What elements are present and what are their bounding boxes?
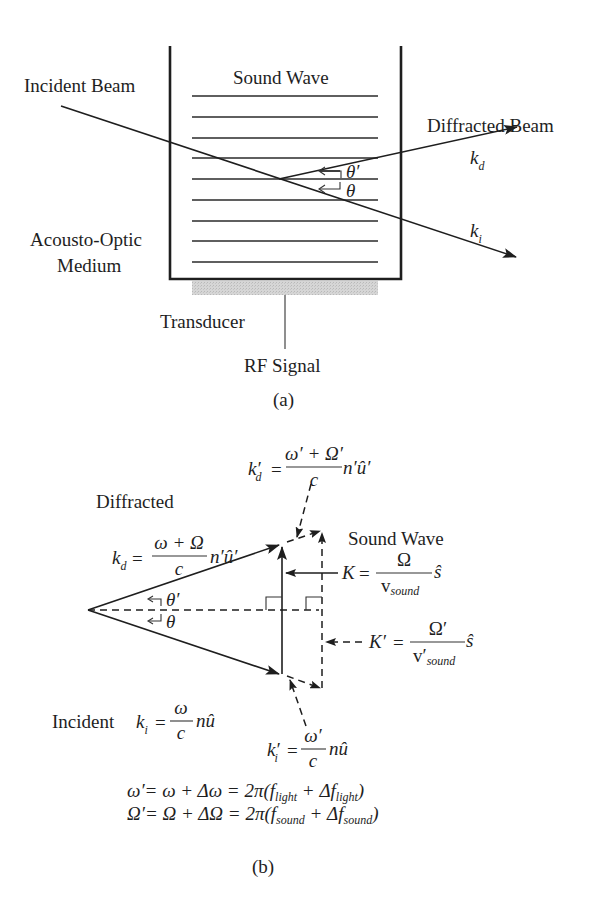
rf-signal-label: RF Signal [244,355,321,376]
transducer-label: Transducer [160,311,245,332]
incident-label: Incident [52,711,115,732]
diffracted-label: Diffracted [96,491,174,512]
svg-text:n′û′: n′û′ [343,457,371,478]
ki-formula: ki = ω c nû [136,697,215,743]
svg-text:vsound: vsound [381,575,420,598]
figure-b: θ′ θ Diffracted Sound Wave Incident (b) … [52,443,474,878]
acousto-optic-figure: θ′ θ Incident Beam Sound Wave Diffracted… [0,0,608,920]
svg-text:=: = [359,563,370,584]
svg-text:ŝ: ŝ [434,561,442,582]
svg-text:n′û′: n′û′ [210,546,238,567]
svg-text:c: c [309,750,318,771]
svg-text:=: = [155,712,166,733]
ki-prime-formula: k′i = ω′ c nû [267,725,348,771]
theta-label: θ [346,180,355,201]
svg-text:ω′ + Ω′: ω′ + Ω′ [285,443,344,464]
kd-prime-formula: k′d = ω′ + Ω′ c n′û′ [248,443,371,490]
svg-text:nû: nû [329,738,348,759]
K-formula: K = Ω vsound ŝ [341,549,442,598]
ki-vector [88,610,279,674]
theta-prime-label-b: θ′ [166,589,180,610]
svg-text:Ω: Ω [397,549,411,570]
svg-text:=: = [393,632,404,653]
right-angle-marker-K [266,597,282,610]
medium-label: Medium [57,255,122,276]
sound-wave-label-b: Sound Wave [348,528,444,549]
svg-text:Ω′: Ω′ [429,618,447,639]
svg-text:kd: kd [112,547,127,573]
svg-text:K′: K′ [368,631,387,652]
K-prime-formula: K′ = Ω′ v′sound ŝ [368,618,474,668]
svg-text:ŝ: ŝ [466,630,474,651]
svg-text:nû: nû [196,710,215,731]
figure-a: θ′ θ Incident Beam Sound Wave Diffracted… [24,46,554,411]
caption-b: (b) [252,856,274,878]
kd-prime-stub [287,531,320,542]
svg-text:ω + Ω: ω + Ω [154,532,204,553]
diffracted-beam-label: Diffracted Beam [427,115,554,136]
svg-text:=: = [271,459,282,480]
angle-markers [319,167,341,193]
svg-text:ω′: ω′ [304,725,322,746]
svg-text:=: = [132,548,143,569]
Omega-prime-equation: Ω′= Ω + ΔΩ = 2π(fsound + Δfsound) [127,803,378,827]
sound-wave-label: Sound Wave [233,67,329,88]
svg-text:k′d: k′d [248,458,263,484]
ki-prime-pointer-arrow [290,680,306,726]
omega-prime-equation: ω′= ω + Δω = 2π(flight + Δflight) [127,780,364,804]
incident-beam-label: Incident Beam [24,75,136,96]
kd-prime-pointer-arrow [297,484,311,537]
svg-text:c: c [177,722,186,743]
svg-text:k′i: k′i [267,739,280,765]
acousto-optic-label: Acousto-Optic [30,229,142,250]
svg-text:c: c [310,469,319,490]
svg-text:c: c [175,558,184,579]
svg-text:ω: ω [174,697,187,718]
transducer-block [192,281,378,295]
theta-prime-label: θ′ [346,161,360,182]
svg-text:v′sound: v′sound [413,645,456,668]
right-angle-marker-K-prime [306,597,322,610]
kd-formula: kd = ω + Ω c n′û′ [112,532,238,579]
svg-text:ki: ki [136,711,148,737]
svg-text:K: K [341,562,356,583]
kd-symbol: kd [470,147,485,173]
theta-label-b: θ [166,611,175,632]
caption-a: (a) [273,389,294,411]
svg-text:=: = [287,740,298,761]
